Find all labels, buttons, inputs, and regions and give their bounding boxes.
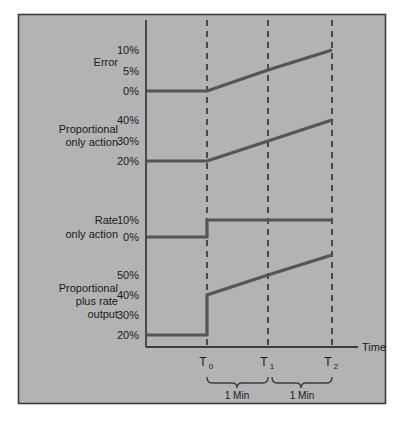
panel-rate-only-tick-10: 10%: [117, 214, 139, 226]
panel-rate-only-label-line1: Rate: [95, 214, 118, 226]
panel-error-tick-5: 5%: [123, 65, 139, 77]
diagram-frame: [19, 15, 386, 404]
panel-proportional-plus-rate-tick-50: 50%: [117, 269, 139, 281]
panel-proportional-only-label-line1: Proportional: [59, 123, 118, 135]
panel-proportional-plus-rate-tick-40: 40%: [117, 289, 139, 301]
time-tick-t2: T: [324, 355, 332, 369]
time-tick-t2-subscript: 2: [334, 362, 339, 371]
time-tick-t0: T: [199, 355, 207, 369]
panel-error-label: Error: [94, 56, 119, 68]
panel-error-tick-10: 10%: [117, 44, 139, 56]
time-tick-t1-subscript: 1: [270, 362, 275, 371]
panel-proportional-plus-rate-label-line2: plus rate: [76, 295, 118, 307]
time-tick-t1: T: [260, 355, 268, 369]
panel-proportional-only-tick-30: 30%: [117, 135, 139, 147]
panel-proportional-only-label-line2: only action: [65, 136, 118, 148]
panel-rate-only-tick-0: 0%: [123, 231, 139, 243]
panel-rate-only-label-line2: only action: [65, 228, 118, 240]
figure-container: Time Error 10% 5% 0% Proportional only a…: [0, 0, 408, 427]
pid-response-diagram: Time Error 10% 5% 0% Proportional only a…: [0, 0, 408, 427]
panel-proportional-only-tick-20: 20%: [117, 155, 139, 167]
panel-proportional-plus-rate-label-line3: output: [87, 308, 118, 320]
panel-proportional-plus-rate-label-line1: Proportional: [59, 282, 118, 294]
time-tick-t0-subscript: 0: [209, 362, 214, 371]
interval-label-second: 1 Min: [290, 390, 314, 401]
panel-error-tick-0: 0%: [123, 85, 139, 97]
panel-proportional-only-tick-40: 40%: [117, 114, 139, 126]
panel-proportional-plus-rate-tick-30: 30%: [117, 309, 139, 321]
time-axis-label: Time: [362, 341, 386, 353]
panel-proportional-plus-rate-tick-20: 20%: [117, 329, 139, 341]
interval-label-first: 1 Min: [225, 390, 249, 401]
